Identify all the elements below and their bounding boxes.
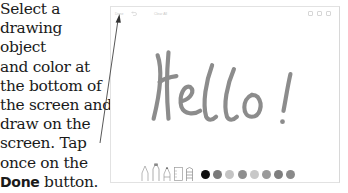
color-swatch-gray-3[interactable]	[262, 170, 271, 179]
exclaim-dot	[280, 119, 285, 124]
color-swatch-gray-1[interactable]	[213, 170, 222, 179]
instruction-line: Done button.	[0, 173, 112, 192]
color-swatch-gray-4[interactable]	[274, 170, 283, 179]
instruction-line: Select a	[0, 0, 112, 19]
color-swatches	[201, 170, 299, 181]
instruction-line: and color at	[0, 58, 112, 77]
trash-icon[interactable]	[326, 11, 331, 16]
instruction-line: the screen and	[0, 96, 112, 115]
device-screen: Done Clear All	[110, 6, 340, 183]
instruction-line: drawing object	[0, 19, 112, 57]
marker-tool[interactable]	[152, 163, 160, 181]
instruction-suffix: button.	[40, 173, 99, 191]
pen-tool[interactable]	[141, 165, 149, 181]
instruction-line: the bottom of	[0, 77, 112, 96]
drawing-palette	[141, 161, 299, 181]
clear-all-button[interactable]: Clear All	[154, 12, 167, 16]
done-keyword: Done	[0, 174, 40, 190]
eraser-tool[interactable]	[174, 167, 183, 181]
instruction-text: Select a drawing object and color at the…	[0, 0, 112, 193]
top-toolbar: Done Clear All	[111, 7, 339, 19]
ruler-tool[interactable]	[186, 166, 193, 181]
color-swatch-light-1[interactable]	[225, 170, 234, 179]
hello-drawing	[154, 52, 291, 119]
done-button[interactable]: Done	[115, 12, 123, 16]
instruction-line: screen. Tap	[0, 134, 112, 153]
color-swatch-light-2[interactable]	[250, 170, 259, 179]
color-swatch-gray-2[interactable]	[238, 170, 247, 179]
color-swatch-black[interactable]	[201, 170, 210, 179]
instruction-line: draw on the	[0, 115, 112, 134]
instruction-line: The drawing is	[0, 192, 112, 193]
instruction-line: once on the	[0, 154, 112, 173]
drawing-canvas[interactable]	[111, 19, 339, 159]
color-swatch-gray-5[interactable]	[286, 170, 295, 179]
share-icon[interactable]	[317, 11, 322, 16]
pen-icon[interactable]	[308, 11, 313, 16]
pencil-tool[interactable]	[163, 165, 171, 181]
toolbar-right-icons	[308, 11, 331, 16]
undo-icon[interactable]	[131, 11, 137, 16]
